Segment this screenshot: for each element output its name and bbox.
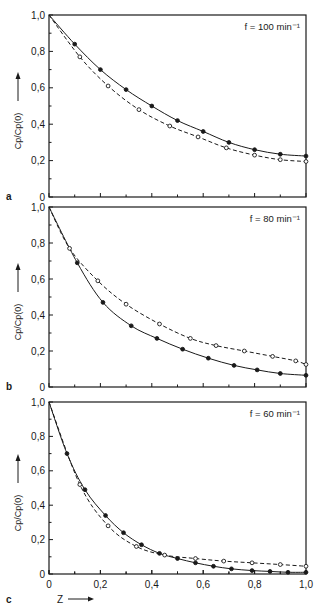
open-data-point — [106, 84, 110, 88]
open-data-point — [194, 557, 198, 561]
x-tick-label: 0,6 — [196, 579, 210, 590]
open-data-point — [68, 247, 72, 251]
dashed-curve — [49, 15, 306, 162]
chart-canvas: 00,20,40,60,81,0Cp/Cp(0)af = 100 min⁻¹00… — [0, 0, 322, 611]
open-data-point — [271, 355, 275, 359]
filled-data-point — [201, 130, 205, 134]
open-data-point — [196, 135, 200, 139]
x-tick-label: 0,2 — [93, 579, 107, 590]
solid-curve — [49, 15, 306, 156]
plot-frame — [49, 15, 306, 197]
filled-data-point — [278, 372, 282, 376]
filled-data-point — [230, 567, 234, 571]
panel-letter: a — [6, 191, 12, 202]
open-data-point — [78, 483, 82, 487]
y-tick-label: 0,6 — [31, 465, 45, 476]
x-tick-label: 0,4 — [145, 579, 159, 590]
filled-data-point — [255, 368, 259, 372]
open-data-point — [304, 564, 308, 568]
x-axis-label: Z — [57, 594, 63, 605]
panel-letter: b — [6, 381, 12, 392]
y-tick-label: 0 — [39, 382, 45, 393]
open-data-point — [137, 108, 141, 112]
filled-data-point — [194, 561, 198, 565]
filled-data-point — [101, 301, 105, 305]
filled-data-point — [129, 324, 133, 328]
y-tick-label: 0,6 — [31, 274, 45, 285]
y-tick-label: 1,0 — [31, 10, 45, 21]
open-data-point — [278, 158, 282, 162]
y-tick-label: 0,4 — [31, 500, 45, 511]
filled-data-point — [181, 347, 185, 351]
open-data-point — [304, 160, 308, 164]
open-data-point — [158, 322, 162, 326]
filled-data-point — [99, 68, 103, 72]
y-tick-label: 0,8 — [31, 431, 45, 442]
open-data-point — [294, 359, 298, 363]
x-tick-label: 0,8 — [248, 579, 262, 590]
open-data-point — [96, 279, 100, 283]
filled-data-point — [268, 570, 272, 574]
plot-frame — [49, 207, 306, 387]
open-data-point — [163, 553, 167, 557]
open-data-point — [78, 55, 82, 59]
filled-data-point — [140, 543, 144, 547]
filled-data-point — [286, 570, 290, 574]
filled-data-point — [104, 514, 108, 518]
solid-curve — [49, 402, 306, 572]
x-tick-label: 0 — [46, 579, 52, 590]
y-axis-label: Cp/Cp(0) — [13, 495, 23, 532]
y-tick-label: 0 — [39, 569, 45, 580]
dashed-curve — [49, 207, 306, 365]
y-tick-label: 0,8 — [31, 238, 45, 249]
y-tick-label: 0,2 — [31, 534, 45, 545]
filled-data-point — [75, 261, 79, 265]
y-tick-label: 0,8 — [31, 46, 45, 57]
filled-data-point — [304, 373, 308, 377]
open-data-point — [278, 563, 282, 567]
open-data-point — [188, 337, 192, 341]
open-data-point — [222, 559, 226, 563]
open-data-point — [242, 349, 246, 353]
open-data-point — [253, 153, 257, 157]
filled-data-point — [227, 141, 231, 145]
y-tick-label: 1,0 — [31, 202, 45, 213]
frequency-annotation: f = 80 min⁻¹ — [250, 213, 300, 224]
filled-data-point — [155, 337, 159, 341]
open-data-point — [214, 344, 218, 348]
open-data-point — [250, 561, 254, 565]
y-tick-label: 0,4 — [31, 310, 45, 321]
x-tick-label: 1,0 — [299, 579, 313, 590]
frequency-annotation: f = 60 min⁻¹ — [250, 408, 300, 419]
open-data-point — [304, 363, 308, 367]
open-data-point — [124, 302, 128, 306]
filled-data-point — [150, 104, 154, 108]
panel-c: 00,20,40,60,81,000,20,40,60,81,0ZCp/Cp(0… — [6, 397, 313, 606]
filled-data-point — [73, 42, 77, 46]
open-data-point — [224, 146, 228, 150]
open-data-point — [134, 545, 138, 549]
filled-data-point — [206, 356, 210, 360]
y-tick-label: 0,4 — [31, 119, 45, 130]
filled-data-point — [212, 564, 216, 568]
y-axis-label: Cp/Cp(0) — [13, 113, 23, 150]
y-tick-label: 0,2 — [31, 346, 45, 357]
frequency-annotation: f = 100 min⁻¹ — [245, 21, 300, 32]
plot-frame — [49, 402, 306, 574]
filled-data-point — [250, 569, 254, 573]
open-data-point — [106, 524, 110, 528]
panel-a: 00,20,40,60,81,0Cp/Cp(0)af = 100 min⁻¹ — [6, 10, 308, 203]
filled-data-point — [176, 119, 180, 123]
solid-curve — [49, 207, 306, 375]
panel-b: 00,20,40,60,81,0Cp/Cp(0)bf = 80 min⁻¹ — [6, 202, 308, 393]
filled-data-point — [124, 88, 128, 92]
dashed-curve — [49, 402, 306, 566]
filled-data-point — [83, 488, 87, 492]
filled-data-point — [304, 154, 308, 158]
y-axis-label: Cp/Cp(0) — [13, 304, 23, 341]
filled-data-point — [232, 364, 236, 368]
filled-data-point — [278, 152, 282, 156]
y-tick-label: 0,2 — [31, 155, 45, 166]
filled-data-point — [122, 531, 126, 535]
panel-letter: c — [6, 594, 12, 605]
